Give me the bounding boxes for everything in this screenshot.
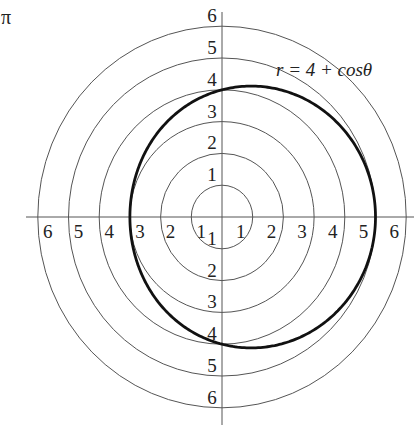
tick-pos-x-3: 3 (297, 221, 307, 242)
tick-neg-x-1: 1 (197, 221, 207, 242)
tick-neg-x-3: 3 (135, 221, 145, 242)
tick-neg-x-4: 4 (104, 221, 114, 242)
tick-pos-x-1: 1 (236, 221, 246, 242)
tick-neg-y-2: 2 (207, 260, 217, 281)
tick-neg-y-3: 3 (207, 291, 217, 312)
tick-pos-x-2: 2 (267, 221, 277, 242)
tick-pos-y-6: 6 (207, 5, 217, 26)
tick-pos-y-4: 4 (207, 69, 217, 90)
tick-pos-y-2: 2 (207, 132, 217, 153)
polar-plot: 123456123456123456123456 r = 4 + cosθ (0, 0, 420, 434)
equation-label: r = 4 + cosθ (276, 59, 372, 80)
tick-pos-x-6: 6 (389, 221, 399, 242)
tick-pos-x-4: 4 (328, 221, 338, 242)
tick-pos-y-1: 1 (207, 164, 217, 185)
tick-neg-y-1: 1 (207, 228, 217, 249)
tick-pos-y-3: 3 (207, 101, 217, 122)
tick-pos-x-5: 5 (359, 221, 369, 242)
tick-neg-y-5: 5 (207, 355, 217, 376)
tick-pos-y-5: 5 (207, 37, 217, 58)
tick-neg-x-5: 5 (74, 221, 84, 242)
tick-neg-y-6: 6 (207, 387, 217, 408)
tick-neg-x-6: 6 (43, 221, 53, 242)
tick-neg-x-2: 2 (166, 221, 176, 242)
